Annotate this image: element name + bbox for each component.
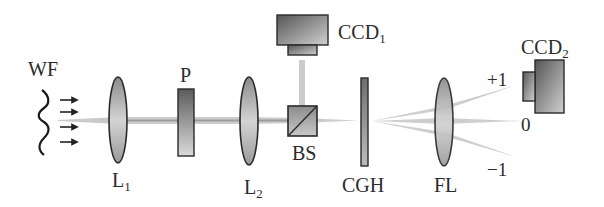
- camera-ccd1: [277, 15, 328, 55]
- plate-p: [178, 89, 194, 156]
- lens-l2: [240, 77, 258, 165]
- label-l2-sub: 2: [256, 186, 263, 201]
- label-ccd1-main: CCD: [338, 21, 379, 43]
- label-l2-main: L: [244, 176, 256, 198]
- wavefront-icon: [39, 90, 49, 155]
- label-fl: FL: [434, 175, 457, 195]
- label-order-0: 0: [521, 115, 531, 134]
- label-order-minus1: −1: [487, 160, 507, 179]
- label-p: P: [180, 65, 191, 85]
- camera-ccd2: [523, 60, 564, 113]
- label-ccd1-sub: 1: [379, 31, 386, 46]
- label-ccd2: CCD2: [521, 37, 569, 60]
- label-order-plus1: +1: [487, 70, 507, 89]
- optical-diagram: [0, 0, 604, 207]
- hologram-cgh: [361, 78, 368, 166]
- label-bs: BS: [292, 143, 316, 163]
- label-l1-sub: 1: [124, 179, 131, 194]
- label-l1-main: L: [112, 169, 124, 191]
- lens-l1: [109, 77, 127, 163]
- label-cgh: CGH: [342, 175, 384, 195]
- lens-fl: [435, 78, 453, 166]
- label-ccd1: CCD1: [338, 22, 386, 45]
- beam-splitter: [288, 106, 317, 136]
- label-ccd2-sub: 2: [562, 46, 569, 61]
- label-ccd2-main: CCD: [521, 36, 562, 58]
- label-l1: L1: [112, 170, 131, 193]
- label-l2: L2: [244, 177, 263, 200]
- label-wf: WF: [28, 59, 58, 79]
